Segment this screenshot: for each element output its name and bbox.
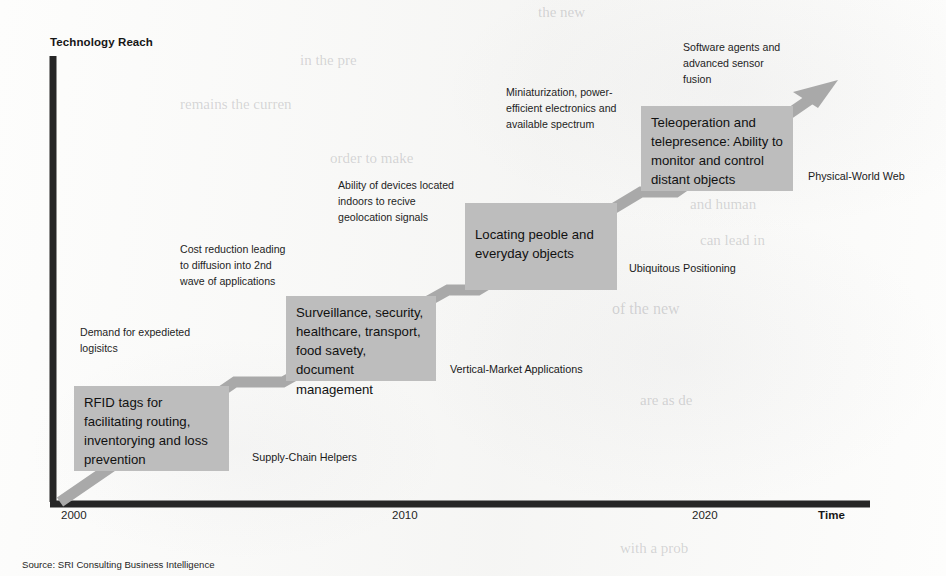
driver-note-cost-reduction: Cost reduction leading to diffusion into… [180,242,350,290]
driver-note-miniaturization: Miniaturization, power- efficient electr… [506,85,686,133]
driver-note-expedited-logistics: Demand for expedieted logisitcs [80,325,280,357]
figure-page: the new in the pre remains the curren or… [0,0,946,576]
x-tick-2000: 2000 [61,509,87,521]
step-box-rfid: RFID tags for facilitating routing, inve… [74,386,229,471]
phase-label-supply-chain-helpers: Supply-Chain Helpers [252,451,357,463]
phase-label-ubiquitous-positioning: Ubiquitous Positioning [629,262,736,274]
phase-label-physical-world-web: Physical-World Web [808,170,905,182]
phase-label-vertical-market-applications: Vertical-Market Applications [450,363,583,375]
driver-note-indoor-geolocation: Ability of devices located indoors to re… [338,178,523,226]
y-axis-title: Technology Reach [50,36,153,48]
driver-note-software-agents: Software agents and advanced sensor fusi… [683,40,843,88]
x-tick-2020: 2020 [692,509,718,521]
step-box-vertical-markets: Surveillance, security, healthcare, tran… [286,296,436,381]
source-note: Source: SRI Consulting Business Intellig… [22,559,215,570]
x-axis-title: Time [818,509,845,521]
x-tick-2010: 2010 [392,509,418,521]
